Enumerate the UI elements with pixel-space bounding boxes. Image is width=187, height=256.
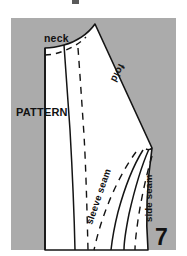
figure-number: 7	[155, 224, 168, 250]
label-side-seam: side seam	[143, 174, 154, 222]
label-pattern: PATTERN	[16, 106, 68, 118]
pattern-diagram-svg: neck PATTERN fold sleeve seam side seam …	[0, 0, 187, 256]
pattern-figure: neck PATTERN fold sleeve seam side seam …	[0, 0, 187, 256]
label-neck: neck	[44, 32, 69, 44]
